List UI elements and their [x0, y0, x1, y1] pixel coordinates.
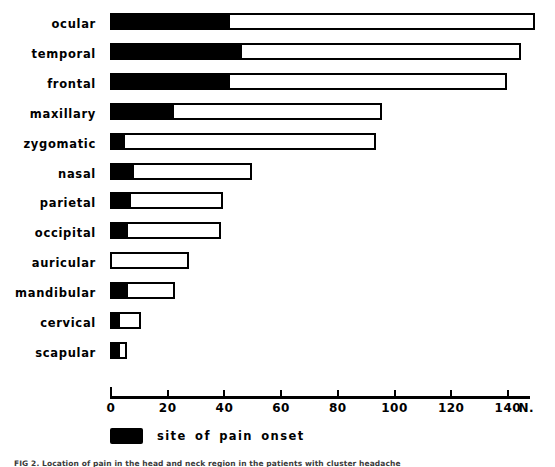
bar-onset-maxillary	[110, 103, 174, 120]
x-axis-tick-label-0: 0	[91, 401, 131, 415]
bar-onset-frontal	[110, 73, 230, 90]
x-axis-tick-80	[337, 390, 339, 397]
bar-total-scapular	[110, 342, 127, 359]
bar-onset-occipital	[110, 222, 128, 239]
chart-row: scapular	[0, 342, 555, 372]
bar-onset-cervical	[110, 312, 120, 329]
category-label-maxillary: maxillary	[0, 103, 96, 125]
chart-row: cervical	[0, 312, 555, 342]
x-axis-tick-label-60: 60	[261, 401, 301, 415]
chart-row: mandibular	[0, 282, 555, 312]
category-label-auricular: auricular	[0, 252, 96, 274]
chart-row: zygomatic	[0, 133, 555, 163]
bar-total-occipital	[110, 222, 221, 239]
category-label-zygomatic: zygomatic	[0, 133, 96, 155]
x-axis-tick-140	[507, 390, 509, 397]
x-axis-tick-label-100: 100	[375, 401, 415, 415]
chart-row: occipital	[0, 222, 555, 252]
bar-onset-mandibular	[110, 282, 128, 299]
bar-total-nasal	[110, 163, 252, 180]
legend-label: site of pain onset	[157, 429, 305, 443]
x-axis-tick-label-40: 40	[204, 401, 244, 415]
x-axis-tick-40	[223, 390, 225, 397]
bar-onset-parietal	[110, 192, 131, 209]
chart-row: nasal	[0, 163, 555, 193]
category-label-ocular: ocular	[0, 13, 96, 35]
chart-row: maxillary	[0, 103, 555, 133]
category-label-frontal: frontal	[0, 73, 96, 95]
x-axis-tick-120	[450, 390, 452, 397]
x-axis-tick-label-120: 120	[431, 401, 471, 415]
bar-onset-ocular	[110, 13, 230, 30]
x-axis: 020406080100120140N.	[0, 388, 555, 428]
chart-row: frontal	[0, 73, 555, 103]
category-label-temporal: temporal	[0, 43, 96, 65]
x-axis-tick-label-80: 80	[318, 401, 358, 415]
category-label-nasal: nasal	[0, 163, 96, 185]
chart-row: parietal	[0, 192, 555, 222]
category-label-occipital: occipital	[0, 222, 96, 244]
bar-total-mandibular	[110, 282, 175, 299]
category-label-scapular: scapular	[0, 342, 96, 364]
x-axis-tick-20	[167, 390, 169, 397]
category-label-cervical: cervical	[0, 312, 96, 334]
bar-total-temporal	[110, 43, 521, 60]
bar-total-parietal	[110, 192, 223, 209]
bar-onset-scapular	[110, 342, 120, 359]
x-axis-tick-60	[280, 390, 282, 397]
bar-total-ocular	[110, 13, 535, 30]
category-label-mandibular: mandibular	[0, 282, 96, 304]
figure-caption: FIG 2. Location of pain in the head and …	[14, 459, 554, 467]
x-axis-tick-100	[394, 390, 396, 397]
bar-total-maxillary	[110, 103, 382, 120]
x-axis-unit-label: N.	[519, 401, 535, 415]
chart-row: auricular	[0, 252, 555, 282]
category-label-parietal: parietal	[0, 192, 96, 214]
x-axis-tick-0	[110, 387, 112, 397]
bar-onset-temporal	[110, 43, 242, 60]
x-axis-tick-label-20: 20	[148, 401, 188, 415]
bar-total-zygomatic	[110, 133, 376, 150]
chart-row: temporal	[0, 43, 555, 73]
chart-row: ocular	[0, 13, 555, 43]
chart-legend: site of pain onset	[110, 428, 305, 444]
bar-onset-nasal	[110, 163, 134, 180]
x-axis-line	[110, 396, 530, 399]
bar-total-frontal	[110, 73, 507, 90]
bar-total-auricular	[110, 252, 189, 269]
bar-chart-figure: oculartemporalfrontalmaxillaryzygomaticn…	[0, 0, 555, 467]
bar-onset-zygomatic	[110, 133, 125, 150]
legend-swatch-site-of-pain-onset	[110, 428, 143, 444]
bar-total-cervical	[110, 312, 141, 329]
